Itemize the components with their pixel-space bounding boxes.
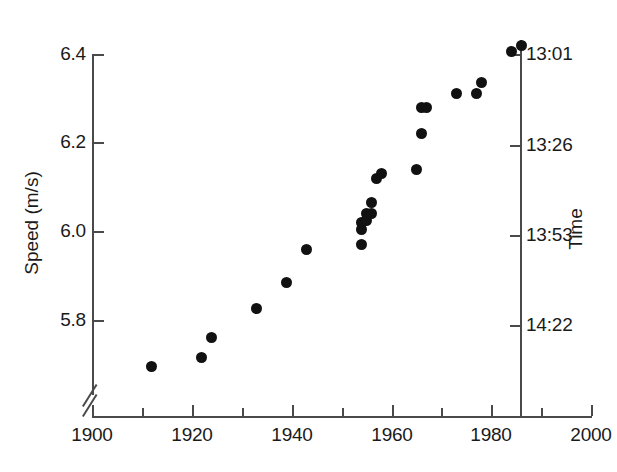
scatter-point — [516, 40, 527, 51]
scatter-point — [146, 361, 157, 372]
scatter-point — [366, 208, 377, 219]
scatter-point — [476, 77, 487, 88]
scatter-point — [251, 303, 262, 314]
scatter-point — [376, 168, 387, 179]
scatter-points-layer — [0, 0, 617, 472]
scatter-point — [206, 332, 217, 343]
scatter-point — [356, 239, 367, 250]
scatter-point — [281, 277, 292, 288]
scatter-point — [196, 352, 207, 363]
scatter-chart-figure: 6.4 6.2 6.0 5.8 13:01 13:26 13:53 14:22 … — [0, 0, 617, 472]
scatter-point — [506, 46, 517, 57]
scatter-point — [451, 88, 462, 99]
scatter-point — [471, 88, 482, 99]
scatter-point — [416, 128, 427, 139]
scatter-point — [301, 244, 312, 255]
scatter-point — [421, 102, 432, 113]
scatter-point — [411, 164, 422, 175]
scatter-point — [366, 197, 377, 208]
